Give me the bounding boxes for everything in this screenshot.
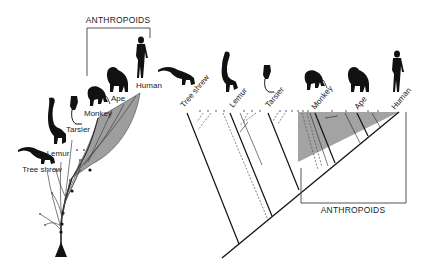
left-root (55, 242, 67, 257)
right-cladogram: ANTHROPOIDS Tree shrew Lemur Tarsier Mon… (158, 51, 413, 259)
left-tarsier-icon (70, 96, 82, 124)
right-lemur-icon (222, 51, 238, 92)
right-human-icon (392, 51, 404, 93)
left-monkey-icon (88, 86, 110, 106)
right-label-lemur: Lemur (228, 86, 250, 109)
left-anthropoids-label: ANTHROPOIDS (86, 15, 151, 25)
right-label-tarsier: Tarsier (264, 85, 287, 109)
right-tip-dots (199, 110, 379, 112)
left-label-ape: Ape (111, 94, 126, 103)
phylogeny-figure: ANTHROPOIDS (0, 0, 421, 270)
right-tarsier-icon (263, 65, 274, 92)
right-label-monkey: Monkey (310, 84, 335, 111)
left-label-tree-shrew: Tree shrew (22, 165, 62, 174)
left-lemur-icon (48, 97, 66, 144)
left-ape-icon (107, 67, 128, 92)
left-label-lemur: Lemur (47, 149, 70, 158)
right-monkey-icon (305, 70, 327, 90)
right-ape-icon (348, 67, 369, 92)
right-label-ape: Ape (353, 94, 369, 111)
left-label-human: Human (136, 81, 162, 90)
left-tree: ANTHROPOIDS (18, 15, 162, 257)
left-label-tarsier: Tarsier (66, 125, 90, 134)
right-tree-shrew-icon (158, 67, 195, 85)
right-anthropoids-label: ANTHROPOIDS (321, 205, 386, 215)
left-human-icon (136, 37, 148, 79)
left-label-monkey: Monkey (84, 109, 112, 118)
